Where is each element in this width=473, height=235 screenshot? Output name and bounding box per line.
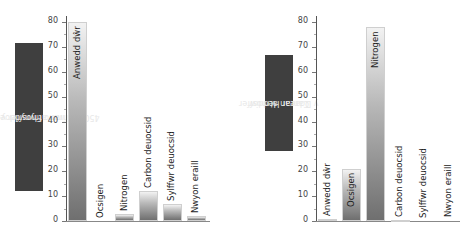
y-tick — [312, 22, 316, 23]
y-tick — [312, 196, 316, 197]
y-minor-tick — [314, 34, 316, 35]
y-tick-label: 30 — [288, 140, 308, 149]
y-tick-label: 40 — [288, 116, 308, 125]
y-tick-label: 20 — [288, 165, 308, 174]
y-axis-label: Canran atmosffer y Ddaear Heddiw — [269, 68, 289, 138]
bar-label: Nitrogen — [370, 31, 380, 68]
y-minor-tick — [314, 209, 316, 210]
bar — [318, 219, 337, 221]
x-axis-line — [316, 221, 460, 222]
y-tick — [312, 97, 316, 98]
bar-label: Sylffwr deuocsid — [418, 148, 428, 218]
y-minor-tick — [314, 184, 316, 185]
y-tick-label: 10 — [288, 190, 308, 199]
y-axis-line — [316, 16, 317, 221]
bar-label: Ocsigen — [346, 173, 356, 207]
y-tick — [312, 72, 316, 73]
bar-label: Anwedd dŵr — [322, 163, 332, 216]
y-tick-label: 50 — [288, 91, 308, 100]
y-tick — [312, 146, 316, 147]
bar — [391, 220, 410, 222]
y-minor-tick — [314, 134, 316, 135]
y-tick-label: 70 — [288, 41, 308, 50]
y-tick-label: 60 — [288, 66, 308, 75]
y-tick — [312, 171, 316, 172]
y-minor-tick — [314, 159, 316, 160]
y-axis-label-line2: y Ddaear Heddiw — [249, 98, 319, 108]
bar-label: Nwyon eraill — [443, 165, 453, 218]
y-minor-tick — [314, 109, 316, 110]
y-tick-label: 0 — [288, 215, 308, 224]
chart-earth-atmosphere-today: Canran atmosffer y Ddaear Heddiw 0102030… — [0, 0, 473, 235]
y-tick — [312, 221, 316, 222]
bar-label: Carbon deuocsid — [394, 145, 404, 216]
y-tick — [312, 47, 316, 48]
y-minor-tick — [314, 59, 316, 60]
y-tick — [312, 122, 316, 123]
y-minor-tick — [314, 84, 316, 85]
y-tick-label: 80 — [288, 16, 308, 25]
